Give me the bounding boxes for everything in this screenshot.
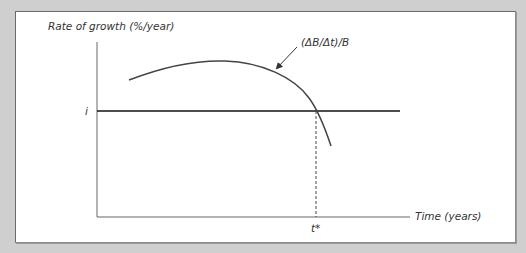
y-axis-title: Rate of growth (%/year) — [48, 20, 174, 32]
curve-label: (ΔB/Δt)/B — [301, 36, 349, 48]
growth-chart: Rate of growth (%/year) (ΔB/Δt)/B i Time… — [0, 0, 526, 253]
t-star-tick-label: t* — [311, 222, 320, 234]
curve-label-arrow-icon — [277, 47, 297, 68]
i-tick-label: i — [85, 105, 88, 117]
growth-rate-curve — [129, 61, 331, 146]
x-axis-title: Time (years) — [415, 210, 481, 222]
